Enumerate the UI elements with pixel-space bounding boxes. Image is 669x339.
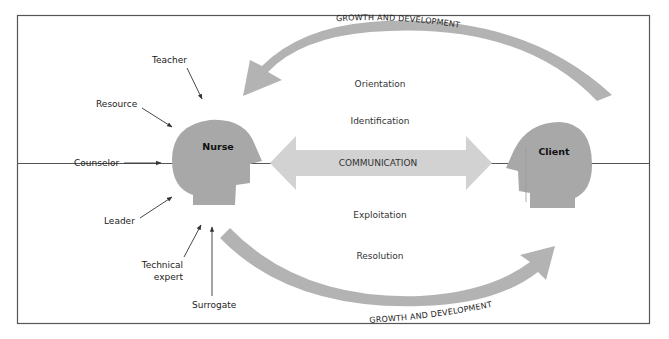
role-teacher: Teacher: [151, 55, 187, 65]
phase-identification: Identification: [350, 116, 409, 126]
nurse-client-diagram: Nurse Client GROWTH AND DEVELOPMENT GROW…: [0, 0, 669, 339]
nurse-head-icon: [172, 120, 262, 205]
teacher-arrow: [187, 68, 202, 99]
phase-orientation: Orientation: [355, 79, 406, 89]
technical-expert-arrow: [184, 225, 201, 257]
phase-exploitation: Exploitation: [353, 210, 407, 220]
phase-resolution: Resolution: [356, 251, 403, 261]
role-expert: expert: [154, 272, 184, 282]
role-technical: Technical: [141, 260, 183, 270]
communication-label: COMMUNICATION: [339, 158, 418, 168]
client-head-icon: [506, 122, 592, 208]
role-resource: Resource: [96, 99, 138, 109]
role-counselor: Counselor: [74, 158, 119, 168]
role-leader: Leader: [104, 216, 135, 226]
leader-arrow: [140, 197, 172, 218]
bottom-growth-arrow: [220, 228, 555, 306]
resource-arrow: [142, 108, 172, 127]
role-surrogate: Surrogate: [192, 300, 237, 310]
client-label: Client: [538, 146, 570, 157]
top-growth-arrow: [243, 21, 612, 101]
nurse-label: Nurse: [202, 141, 234, 152]
